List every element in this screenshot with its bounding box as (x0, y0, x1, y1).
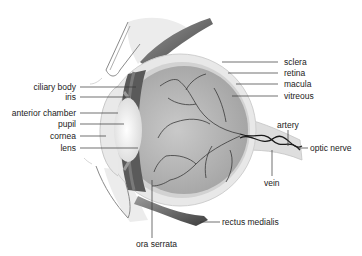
label-ciliary-body: ciliary body (33, 82, 76, 92)
label-pupil: pupil (58, 119, 76, 129)
lens-shape (114, 98, 142, 162)
label-anterior-chamber: anterior chamber (12, 108, 76, 118)
label-optic-nerve: optic nerve (310, 143, 352, 153)
label-cornea: cornea (50, 131, 76, 141)
label-vein: vein (264, 178, 280, 188)
label-vitreous: vitreous (284, 91, 314, 101)
label-sclera: sclera (284, 57, 307, 67)
eye-anatomy-diagram (0, 0, 362, 256)
label-ora-serrata: ora serrata (136, 239, 177, 249)
label-iris: iris (65, 92, 76, 102)
label-rectus-medialis: rectus medialis (222, 217, 279, 227)
label-artery: artery (277, 120, 299, 130)
label-macula: macula (284, 79, 311, 89)
label-lens: lens (60, 143, 76, 153)
label-retina: retina (284, 68, 305, 78)
